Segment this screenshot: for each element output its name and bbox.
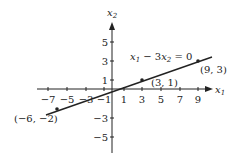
point-marker: [140, 78, 144, 82]
point-label: (−6, −2): [14, 113, 58, 124]
coordinate-plane-figure: −7 −5 −3 −1 1 3 5 7 9 x1: [0, 0, 237, 163]
y-axis-arrow-icon: [109, 22, 115, 30]
point-marker: [55, 107, 59, 111]
x-tick-label: 5: [158, 94, 164, 105]
x-axis: −7 −5 −3 −1 1 3 5 7 9 x1: [37, 84, 225, 105]
y-axis-label: x2: [107, 7, 118, 20]
x-tick-label: 3: [139, 94, 145, 105]
y-tick-label: −5: [93, 132, 108, 143]
x-tick-label: 9: [195, 94, 201, 105]
x-tick-label: 7: [177, 94, 183, 105]
x-tick-label: −1: [97, 94, 112, 105]
y-tick-label: 1: [102, 75, 108, 86]
point-group: (−6, −2) (3, 1) (9, 3): [14, 59, 227, 124]
y-tick-label: 3: [102, 56, 108, 67]
y-tick-label: 5: [102, 37, 108, 48]
y-axis: 5 3 1 −3 −5 x2: [93, 7, 117, 153]
x-tick-label: −5: [60, 94, 75, 105]
line-equation-label: x1 − 3x2 = 0: [130, 51, 192, 64]
x-tick-label: 1: [121, 94, 127, 105]
point-label: (9, 3): [200, 64, 227, 75]
y-tick-label: −3: [93, 113, 108, 124]
x-axis-label: x1: [215, 84, 225, 97]
x-tick-label: −7: [41, 94, 56, 105]
x-axis-arrow-icon: [205, 86, 213, 92]
point-marker: [196, 59, 200, 63]
point-label: (3, 1): [151, 77, 178, 88]
solution-line: [46, 57, 212, 115]
